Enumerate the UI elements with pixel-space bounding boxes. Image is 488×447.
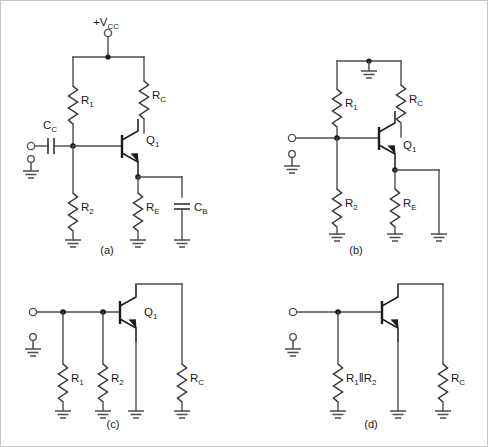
panel-c-rc-ground-icon: [174, 411, 190, 418]
panel-a-input-terminal[interactable]: [27, 142, 34, 149]
panel-c-r1-ground-icon: [55, 411, 71, 418]
panel-b-caption: (b): [349, 244, 362, 256]
panel-c-label-q1: Q1: [144, 306, 158, 321]
panel-b-label-r1: R1: [345, 97, 358, 112]
panel-c-label-r1: R1: [71, 372, 84, 387]
panel-c-resistor-rc: [178, 364, 187, 402]
figure-root: R1 RC CC Q1: [0, 0, 488, 447]
panel-b-r2-ground-icon: [329, 234, 345, 241]
panel-c-bjt-collector-lead: [120, 284, 136, 306]
panel-a-caption: (a): [100, 244, 113, 256]
panel-d-rc-ground-icon: [435, 411, 451, 418]
panel-a-label-r2: R2: [81, 201, 94, 216]
panel-c-r2-ground-icon: [95, 411, 111, 418]
panel-b-label-re: RE: [403, 197, 417, 212]
panel-a-re-ground-icon: [130, 240, 146, 247]
panel-a-label-cc: CC: [43, 119, 57, 134]
panel-a-label-vcc: +VCC: [93, 16, 119, 31]
panel-c-input-terminal[interactable]: [29, 308, 36, 315]
panel-a-label-re: RE: [146, 201, 160, 216]
panel-d-label-rc: RC: [451, 372, 465, 387]
panel-a-bjt-collector-lead: [122, 119, 138, 140]
panel-b-right-ground-icon: [431, 234, 447, 241]
panel-b: R1 RC Q1: [284, 58, 447, 256]
panel-a-node-vcc: [105, 54, 110, 59]
panel-c-caption: (c): [107, 418, 120, 430]
panel-a-input-gnd-terminal[interactable]: [28, 156, 35, 163]
panel-a-resistor-rc: [140, 81, 149, 119]
panel-d-emitter-ground-icon: [390, 411, 406, 418]
panel-a-resistor-re: [134, 193, 143, 231]
panel-d-rpar-ground-icon: [330, 411, 346, 418]
panel-a-resistor-r1: [69, 86, 78, 124]
panel-b-input-ground-icon: [284, 166, 300, 173]
circuit-diagram: R1 RC CC Q1: [1, 1, 488, 447]
panel-c-label-r2: R2: [111, 372, 124, 387]
panel-d-label-rpar: R1‖R2: [346, 371, 377, 387]
panel-b-resistor-r1: [333, 89, 342, 127]
panel-c-label-rc: RC: [190, 372, 204, 387]
panel-a-cb-ground-icon: [174, 240, 190, 247]
panel-a-label-cb: CB: [194, 201, 208, 216]
panel-b-label-r2: R2: [345, 197, 358, 212]
panel-d-input-gnd-terminal[interactable]: [290, 334, 297, 341]
panel-d: R1‖R2 RC (d): [285, 284, 465, 430]
panel-d-input-ground-icon: [285, 349, 301, 356]
panel-b-resistor-re: [391, 189, 400, 227]
panel-d-input-terminal[interactable]: [289, 308, 296, 315]
panel-b-input-terminal[interactable]: [288, 134, 295, 141]
panel-d-resistor-rc: [439, 364, 448, 402]
panel-c-emitter-ground-icon: [128, 411, 144, 418]
panel-a: R1 RC CC Q1: [23, 16, 208, 256]
panel-b-resistor-r2: [333, 189, 342, 227]
panel-b-top-ground-icon: [361, 71, 377, 78]
panel-d-resistor-rpar: [334, 364, 343, 402]
panel-c: R1 R2 Q1 RC (c): [25, 284, 204, 430]
panel-c-input-ground-icon: [25, 349, 41, 356]
panel-d-bjt-collector-lead: [382, 284, 398, 306]
panel-a-label-r1: R1: [81, 94, 94, 109]
panel-b-re-ground-icon: [387, 234, 403, 241]
panel-c-resistor-r2: [99, 364, 108, 402]
panel-b-bjt-collector-lead: [379, 111, 395, 132]
panel-d-caption: (d): [364, 418, 377, 430]
panel-a-input-ground-icon: [23, 171, 39, 178]
panel-a-label-rc: RC: [152, 89, 166, 104]
panel-a-label-q1: Q1: [146, 134, 160, 149]
panel-c-resistor-r1: [59, 364, 68, 402]
panel-b-input-gnd-terminal[interactable]: [289, 151, 296, 158]
panel-b-label-q1: Q1: [403, 139, 417, 154]
panel-a-resistor-r2: [69, 193, 78, 231]
panel-b-label-rc: RC: [409, 93, 423, 108]
panel-a-r2-ground-icon: [65, 240, 81, 247]
panel-b-resistor-rc: [397, 85, 406, 123]
panel-c-input-gnd-terminal[interactable]: [30, 334, 37, 341]
